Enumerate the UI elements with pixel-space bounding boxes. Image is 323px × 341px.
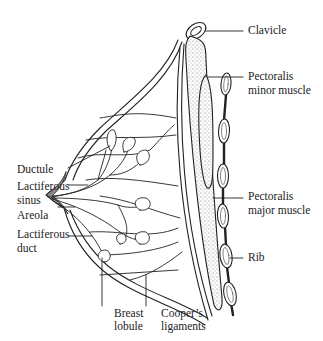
label-pectoralis-major-line1: Pectoralis <box>248 190 293 203</box>
label-pectoralis-major-line2: major muscle <box>248 204 310 217</box>
label-coopers-line1: Cooper’s <box>161 307 203 320</box>
lactiferous-ducts <box>52 148 142 260</box>
label-pectoralis-minor-line1: Pectoralis <box>248 70 293 83</box>
label-coopers-line2: ligaments <box>161 320 206 333</box>
label-rib: Rib <box>248 251 265 264</box>
breast-outline <box>46 40 207 325</box>
label-lactiferous-sinus-line1: Lactiferous <box>17 180 69 193</box>
label-pectoralis-minor-line2: minor muscle <box>248 84 311 97</box>
label-ductule: Ductule <box>17 163 53 176</box>
label-lactiferous-duct-line2: duct <box>17 242 37 255</box>
label-lactiferous-sinus-line2: sinus <box>17 194 41 207</box>
label-breast-lobule-line1: Breast <box>114 307 143 320</box>
breast-anatomy-diagram: Clavicle Pectoralis minor muscle Pectora… <box>0 0 323 341</box>
label-areola: Areola <box>17 209 48 222</box>
label-clavicle: Clavicle <box>248 24 286 37</box>
label-breast-lobule-line2: lobule <box>114 320 143 333</box>
label-lactiferous-duct-line1: Lactiferous <box>17 228 69 241</box>
